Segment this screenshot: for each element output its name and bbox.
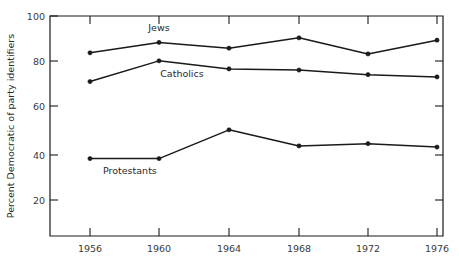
data-point [157,59,161,63]
data-point [88,157,92,161]
y-axis-title: Percent Democratic of party identifiers [5,34,16,218]
chart-page: 100 80 60 40 20 1956 1960 1964 1968 [0,0,459,270]
line-chart: 100 80 60 40 20 1956 1960 1964 1968 [0,0,459,270]
y-tick-label-60: 60 [33,101,45,112]
data-point [88,51,92,55]
x-tick-label-1956: 1956 [78,243,102,254]
data-point [227,128,231,132]
data-point [297,36,301,40]
series-label-catholics: Catholics [160,68,204,79]
series-catholics [88,59,439,84]
data-point [227,46,231,50]
x-tick-label-1964: 1964 [217,243,241,254]
data-point [366,52,370,56]
x-axis-tick-labels: 1956 1960 1964 1968 1972 1976 [78,243,449,254]
data-point [366,73,370,77]
data-point [227,67,231,71]
data-point [297,144,301,148]
data-point [435,38,439,42]
series-label-protestants: Protestants [103,165,157,176]
data-point [88,79,92,83]
x-tick-label-1976: 1976 [425,243,449,254]
x-axis-ticks [90,16,437,236]
x-tick-label-1960: 1960 [147,243,171,254]
series-label-jews: Jews [147,22,169,33]
data-point [157,40,161,44]
plot-frame [50,16,443,236]
y-tick-label-80: 80 [33,56,45,67]
axis-box [50,16,443,236]
x-tick-label-1968: 1968 [287,243,311,254]
y-tick-label-20: 20 [33,195,45,206]
data-point [157,157,161,161]
series-protestants [88,128,439,161]
series-jews [88,36,439,56]
y-axis-tick-labels: 100 80 60 40 20 [27,11,45,206]
data-point [435,145,439,149]
data-point [366,142,370,146]
data-series-layer [88,36,439,161]
series-line-jews [90,38,437,54]
series-line-protestants [90,130,437,159]
data-point [435,75,439,79]
x-tick-label-1972: 1972 [356,243,380,254]
y-tick-label-40: 40 [33,150,45,161]
series-line-catholics [90,61,437,82]
data-point [297,68,301,72]
y-tick-label-100: 100 [27,11,45,22]
